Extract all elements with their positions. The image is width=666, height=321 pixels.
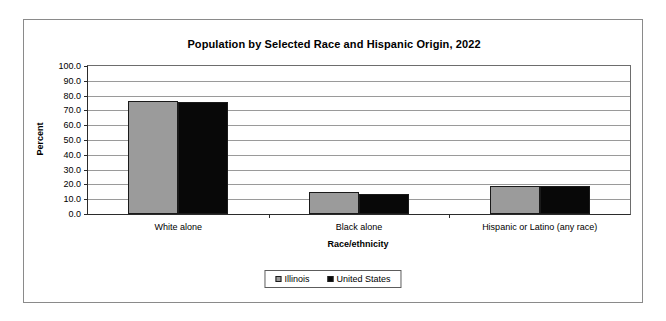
y-tick-mark xyxy=(84,140,88,141)
legend-label: United States xyxy=(336,274,390,284)
bar-united-states[interactable] xyxy=(359,194,409,214)
x-axis-title: Race/ethnicity xyxy=(87,239,629,249)
chart-title: Population by Selected Race and Hispanic… xyxy=(24,38,644,50)
bar-illinois[interactable] xyxy=(128,101,178,214)
y-tick-mark xyxy=(84,155,88,156)
y-tick-label: 100.0 xyxy=(58,61,81,71)
y-tick-label: 60.0 xyxy=(63,120,81,130)
bar-united-states[interactable] xyxy=(178,102,228,214)
chart-container: Population by Selected Race and Hispanic… xyxy=(23,19,643,303)
legend-entry[interactable]: United States xyxy=(327,274,390,284)
legend-swatch-icon xyxy=(275,276,281,282)
bar-illinois[interactable] xyxy=(309,192,359,214)
y-tick-mark xyxy=(84,96,88,97)
y-axis-title: Percent xyxy=(34,65,46,213)
legend-label: Illinois xyxy=(284,274,309,284)
x-tick-mark xyxy=(449,214,450,218)
legend-swatch-icon xyxy=(327,276,333,282)
y-tick-label: 70.0 xyxy=(63,105,81,115)
y-tick-label: 80.0 xyxy=(63,91,81,101)
bar-group xyxy=(128,66,228,214)
x-tick-mark xyxy=(269,214,270,218)
y-tick-label: 90.0 xyxy=(63,76,81,86)
bar-united-states[interactable] xyxy=(540,186,590,214)
x-tick-label: Black alone xyxy=(336,222,383,232)
plot-area: 0.010.020.030.040.050.060.070.080.090.01… xyxy=(87,65,631,215)
y-tick-mark xyxy=(84,170,88,171)
y-tick-mark xyxy=(84,66,88,67)
y-tick-mark xyxy=(84,214,88,215)
y-tick-label: 50.0 xyxy=(63,135,81,145)
y-tick-mark xyxy=(84,81,88,82)
y-tick-mark xyxy=(84,125,88,126)
y-tick-mark xyxy=(84,110,88,111)
x-tick-label: White alone xyxy=(155,222,203,232)
y-tick-label: 10.0 xyxy=(63,194,81,204)
y-tick-label: 40.0 xyxy=(63,150,81,160)
y-tick-mark xyxy=(84,199,88,200)
bar-group xyxy=(309,66,409,214)
x-tick-label: Hispanic or Latino (any race) xyxy=(482,222,597,232)
chart-legend: IllinoisUnited States xyxy=(264,270,401,288)
bar-illinois[interactable] xyxy=(490,186,540,214)
bar-group xyxy=(490,66,590,214)
y-tick-label: 0.0 xyxy=(68,209,81,219)
legend-entry[interactable]: Illinois xyxy=(275,274,309,284)
y-tick-mark xyxy=(84,184,88,185)
y-tick-label: 30.0 xyxy=(63,165,81,175)
y-tick-label: 20.0 xyxy=(63,179,81,189)
